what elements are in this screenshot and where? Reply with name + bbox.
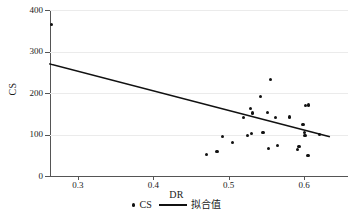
x-tick-label: 0.4	[133, 181, 173, 190]
data-point	[301, 123, 304, 126]
y-tick-label: 300	[2, 47, 43, 56]
data-point	[249, 107, 252, 110]
x-tick-label: 0.6	[284, 181, 324, 190]
data-point	[307, 103, 310, 106]
gridline	[50, 52, 348, 53]
data-point	[251, 111, 254, 114]
legend-entry-cs: CS	[132, 200, 151, 210]
data-point	[318, 133, 321, 136]
data-point	[246, 134, 249, 137]
legend-label-cs: CS	[139, 200, 151, 210]
legend-entry-fitted: 拟合值	[159, 200, 221, 210]
y-tick-label: 100	[2, 130, 43, 139]
data-point	[288, 115, 291, 118]
legend-label-fitted: 拟合值	[191, 200, 221, 210]
data-point	[297, 145, 300, 148]
y-tick-label: 0	[2, 172, 43, 181]
gridline	[50, 10, 348, 11]
legend-dot-icon	[132, 203, 135, 206]
y-tick-label: 400	[2, 6, 43, 15]
chart-legend: CS 拟合值	[0, 200, 353, 210]
y-tick-mark	[45, 93, 50, 94]
gridline	[50, 93, 348, 94]
data-point	[306, 154, 309, 157]
data-point	[250, 132, 253, 135]
y-tick-mark	[45, 135, 50, 136]
data-point	[303, 134, 306, 137]
data-point	[259, 95, 262, 98]
y-axis-title: CS	[8, 74, 18, 104]
x-axis-title: DR	[0, 190, 353, 200]
data-point	[50, 23, 53, 26]
data-point	[266, 111, 269, 114]
legend-line-icon	[159, 204, 187, 206]
y-tick-mark	[45, 176, 50, 177]
data-point	[205, 153, 208, 156]
data-point	[215, 150, 218, 153]
y-tick-mark	[45, 10, 50, 11]
scatter-chart-figure: 0100200300400 0.30.40.50.6 CS DR CS 拟合值	[0, 0, 353, 217]
x-tick-label: 0.3	[58, 181, 98, 190]
y-tick-mark	[45, 52, 50, 53]
x-tick-label: 0.5	[209, 181, 249, 190]
